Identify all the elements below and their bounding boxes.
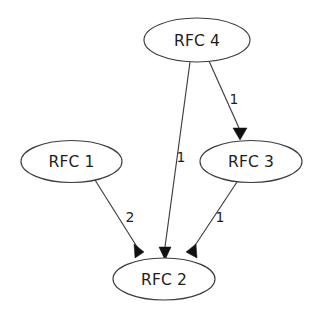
- node-rfc4[interactable]: RFC 4: [144, 18, 250, 62]
- edge-rfc1-to-rfc2[interactable]: 2: [95, 180, 144, 258]
- node-rfc1[interactable]: RFC 1: [21, 141, 122, 183]
- node-group: RFC 4 RFC 1 RFC 3 RFC 2: [21, 18, 302, 300]
- edge-weight-label: 1: [216, 209, 225, 225]
- node-rfc3[interactable]: RFC 3: [200, 141, 302, 183]
- rfc-dependency-graph: 1 1 2 1 RFC 4: [0, 0, 319, 318]
- edge-line: [192, 182, 237, 250]
- node-label: RFC 2: [141, 271, 187, 289]
- node-rfc2[interactable]: RFC 2: [113, 258, 215, 300]
- arrowhead-icon: [233, 128, 247, 140]
- edge-rfc4-to-rfc3[interactable]: 1: [209, 61, 247, 140]
- edge-rfc4-to-rfc2[interactable]: 1: [159, 62, 190, 260]
- node-label: RFC 3: [228, 153, 274, 171]
- edge-weight-label: 1: [230, 91, 239, 107]
- edge-weight-label: 1: [177, 149, 186, 165]
- node-label: RFC 1: [49, 153, 95, 171]
- arrowhead-icon: [134, 244, 144, 258]
- diagram-canvas: 1 1 2 1 RFC 4: [0, 0, 319, 318]
- edge-weight-label: 2: [126, 209, 135, 225]
- edge-rfc3-to-rfc2[interactable]: 1: [186, 182, 237, 258]
- node-label: RFC 4: [174, 32, 220, 50]
- arrowhead-icon: [186, 244, 197, 258]
